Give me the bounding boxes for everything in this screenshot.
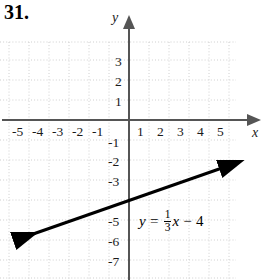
y-axis-label: y (110, 10, 119, 25)
x-tick-labels-positive: 1 2 3 4 5 (137, 124, 224, 139)
x-tick-label: 2 (157, 124, 164, 139)
x-tick-labels-negative: -5 -4 -3 -2 -1 (12, 124, 103, 139)
x-tick-label: -1 (92, 124, 103, 139)
y-tick-labels-negative: -1 -2 -3 -5 -6 -7 (108, 135, 119, 269)
equation-fraction: 13 (164, 209, 172, 233)
x-tick-label: 5 (217, 124, 224, 139)
fraction-numerator: 1 (164, 209, 172, 221)
equation-minus: − (183, 213, 191, 229)
y-tick-label: -6 (108, 234, 119, 249)
x-tick-label: 3 (177, 124, 184, 139)
x-tick-label: -2 (72, 124, 83, 139)
y-tick-label: 1 (115, 94, 122, 109)
y-tick-label: -2 (108, 154, 119, 169)
y-tick-label: -1 (108, 135, 119, 150)
x-axis-label: x (251, 125, 259, 140)
y-tick-label: -7 (108, 254, 119, 269)
figure-container: 31. (0, 0, 264, 280)
x-tick-label: -5 (12, 124, 23, 139)
y-tick-label: 3 (115, 54, 122, 69)
x-tick-label: 1 (137, 124, 144, 139)
equation-lhs: y (139, 213, 146, 229)
y-tick-label: -5 (108, 214, 119, 229)
x-tick-label: -4 (32, 124, 43, 139)
y-tick-labels-positive: 3 2 1 (115, 54, 122, 109)
fraction-denominator: 3 (164, 221, 172, 234)
coordinate-plane: y x -5 -4 -3 -2 -1 1 2 3 4 5 3 2 1 -1 -2 (0, 0, 264, 280)
x-tick-label: 4 (197, 124, 204, 139)
y-tick-label: 2 (115, 74, 122, 89)
axes (2, 27, 249, 280)
equation-label: y = 13x − 4 (139, 209, 204, 233)
equation-constant: 4 (196, 213, 204, 229)
x-tick-label: -3 (52, 124, 63, 139)
y-tick-label: -3 (108, 174, 119, 189)
